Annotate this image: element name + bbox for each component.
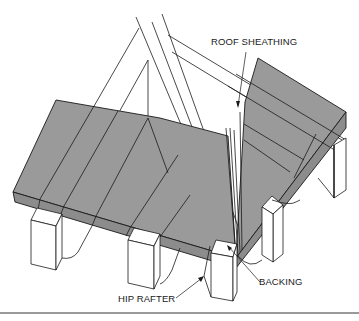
block-middle	[128, 228, 160, 289]
bottom-divider	[0, 312, 359, 314]
right-sheathing-top	[236, 58, 346, 258]
label-hip-rafter: HIP RAFTER	[118, 293, 175, 304]
block-far-right	[334, 138, 346, 198]
block-left	[31, 208, 62, 270]
block-right-front	[262, 196, 283, 262]
roof-framing-diagram	[0, 0, 359, 321]
label-roof-sheathing: ROOF SHEATHING	[211, 36, 297, 47]
block-center	[211, 240, 237, 301]
label-backing: BACKING	[259, 276, 302, 287]
